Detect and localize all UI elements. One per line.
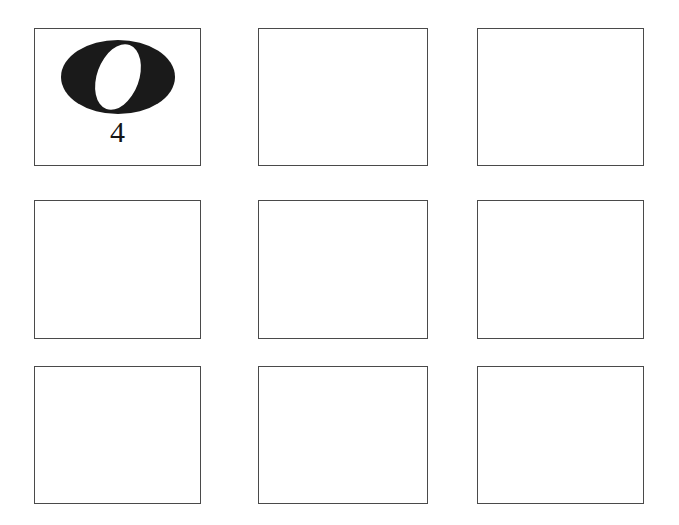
grid-cell-r2c1[interactable] <box>258 366 428 504</box>
cell-content-r2c1 <box>259 367 427 503</box>
cell-content-r2c2 <box>478 367 643 503</box>
cell-content-r1c1 <box>259 201 427 338</box>
grid-cell-r1c0[interactable] <box>34 200 201 339</box>
cell-content-r0c2 <box>478 29 643 165</box>
cell-content-r0c0: 4 <box>35 29 200 165</box>
cell-content-r0c1 <box>259 29 427 165</box>
cell-content-r1c0 <box>35 201 200 338</box>
grid-cell-r1c2[interactable] <box>477 200 644 339</box>
cell-content-r1c2 <box>478 201 643 338</box>
ellipse-ring-icon <box>59 37 177 117</box>
cell-content-r2c0 <box>35 367 200 503</box>
grid-cell-r1c1[interactable] <box>258 200 428 339</box>
figure-number-label: 4 <box>35 117 200 147</box>
grid-cell-r0c2[interactable] <box>477 28 644 166</box>
grid-cell-r0c0[interactable]: 4 <box>34 28 201 166</box>
figure-container <box>35 35 200 119</box>
worksheet-canvas: 4 <box>0 0 679 525</box>
grid-cell-r2c2[interactable] <box>477 366 644 504</box>
grid-cell-r2c0[interactable] <box>34 366 201 504</box>
grid-cell-r0c1[interactable] <box>258 28 428 166</box>
